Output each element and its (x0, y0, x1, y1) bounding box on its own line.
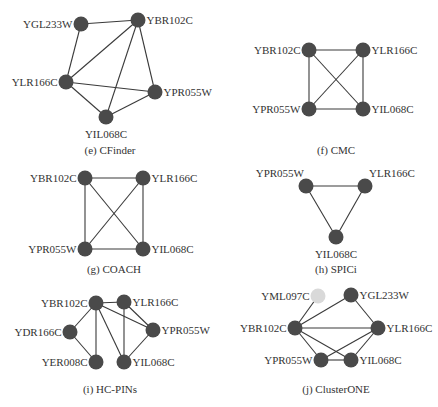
panel-cmc: YBR102CYLR166CYPR055WYIL068C(f) CMC (252, 43, 417, 158)
node-ypr055w (314, 353, 329, 368)
node-label: YGL233W (23, 18, 73, 30)
node-label: YPR055W (164, 86, 213, 98)
node-yil068c (356, 102, 371, 117)
edge-ygl233w-ybr102c (81, 20, 138, 24)
node-label: YPR055W (256, 167, 305, 179)
panel-hc-pins: YBR102CYLR166CYDR166CYPR055WYER008CYIL06… (14, 295, 210, 397)
node-label: YBR102C (41, 297, 87, 309)
panel-caption: (h) SPICi (315, 263, 357, 276)
node-ylr166c (358, 179, 373, 194)
panel-coach: YBR102CYLR166CYPR055WYIL068C(g) COACH (28, 171, 197, 277)
node-label: YER008C (42, 356, 88, 368)
node-ybr102c (302, 43, 317, 58)
node-label: YBR102C (254, 44, 300, 56)
edge-ybr102c-ypr055w (138, 20, 155, 92)
node-label: YLR166C (133, 296, 179, 308)
node-label: YGL233W (360, 289, 410, 301)
node-label: YPR055W (264, 354, 313, 366)
node-label: YLR166C (372, 44, 418, 56)
node-label: YLR166C (387, 322, 433, 334)
node-label: YPR055W (162, 324, 211, 336)
node-ypr055w (146, 323, 161, 338)
node-yer008c (89, 355, 104, 370)
node-ypr055w (148, 85, 163, 100)
node-yil068c (329, 230, 344, 245)
edge-ypr055w-yil068c (306, 186, 336, 237)
node-label: YIL068C (152, 243, 194, 255)
panel-cfinder: YGL233WYBR102CYLR166CYPR055WYIL068C(e) C… (12, 13, 213, 158)
node-label: YPR055W (28, 243, 77, 255)
node-label: YDR166C (14, 326, 61, 338)
edge-ygl233w-ylr166c (66, 24, 81, 82)
edge-ylr166c-yil068c (336, 186, 365, 237)
node-ylr166c (117, 295, 132, 310)
node-label: YIL068C (133, 356, 175, 368)
node-ybr102c (78, 171, 93, 186)
edge-ybr102c-yil068c (96, 303, 124, 362)
node-yil068c (117, 355, 132, 370)
node-yil068c (136, 242, 151, 257)
node-ylr166c (371, 321, 386, 336)
node-ygl233w (74, 17, 89, 32)
node-label: YML097C (261, 290, 309, 302)
node-ylr166c (59, 75, 74, 90)
node-label: YIL068C (360, 354, 402, 366)
panel-caption: (j) ClusterONE (302, 383, 370, 396)
panel-caption: (f) CMC (317, 144, 355, 157)
panel-caption: (e) CFinder (84, 144, 135, 157)
node-label: YBR102C (147, 14, 193, 26)
node-ylr166c (136, 171, 151, 186)
node-label: YLR166C (12, 76, 58, 88)
node-label: YPR055W (252, 103, 301, 115)
node-label: YBR102C (240, 322, 286, 334)
node-yil068c (344, 353, 359, 368)
node-ygl233w (344, 288, 359, 303)
node-label: YIL068C (372, 103, 414, 115)
node-yil068c (99, 110, 114, 125)
node-ypr055w (78, 242, 93, 257)
node-ybr102c (89, 296, 104, 311)
edge-ylr166c-ypr055w (66, 82, 155, 92)
edge-ylr166c-yil068c (66, 82, 106, 117)
node-label: YBR102C (30, 172, 76, 184)
node-yml097c (311, 289, 326, 304)
node-label: YLR166C (369, 167, 415, 179)
node-label: YIL068C (315, 248, 357, 260)
node-ylr166c (356, 43, 371, 58)
node-ybr102c (288, 321, 303, 336)
panel-clusterone: YML097CYGL233WYBR102CYLR166CYPR055WYIL06… (240, 288, 432, 397)
node-ydr166c (63, 325, 78, 340)
node-ypr055w (302, 102, 317, 117)
complex-comparison-figure: YGL233WYBR102CYLR166CYPR055WYIL068C(e) C… (0, 0, 438, 407)
panel-caption: (i) HC-PINs (83, 383, 137, 396)
node-ypr055w (299, 179, 314, 194)
node-label: YLR166C (152, 172, 198, 184)
edge-ybr102c-yil068c (106, 20, 138, 117)
panel-caption: (g) COACH (87, 263, 141, 276)
panel-spici: YPR055WYLR166CYIL068C(h) SPICi (256, 167, 415, 277)
node-label: YIL068C (85, 128, 127, 140)
node-ybr102c (131, 13, 146, 28)
